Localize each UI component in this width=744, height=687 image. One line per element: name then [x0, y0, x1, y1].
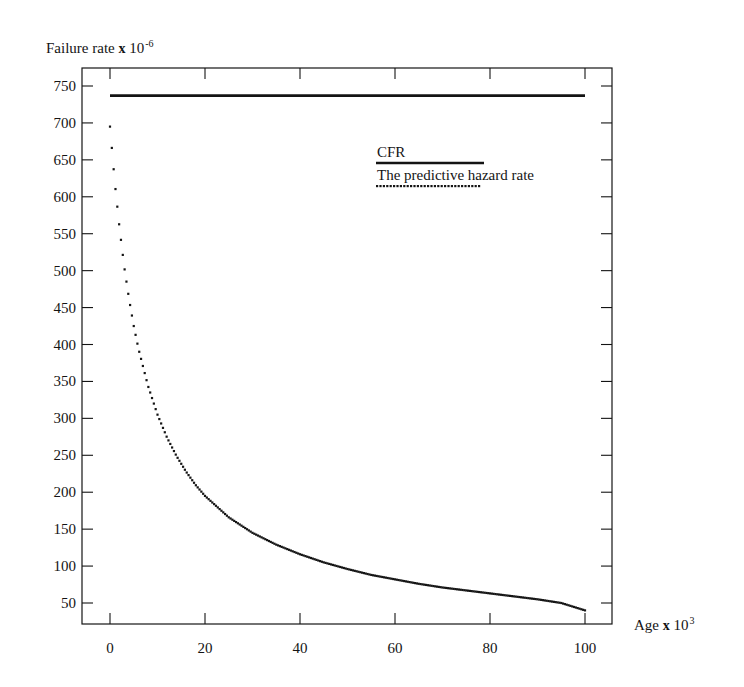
chart-figure: Failure rate x 10-6 Age x 103 5010015020…	[0, 0, 744, 687]
y-tick-label: 200	[30, 484, 76, 501]
x-axis-title-exponent: 3	[690, 615, 695, 626]
y-tick-label: 150	[30, 521, 76, 538]
x-axis-title-base: 10	[674, 617, 689, 633]
x-tick-label: 100	[555, 640, 615, 657]
y-axis-title-exponent: -6	[145, 38, 153, 49]
plot-frame	[82, 68, 612, 624]
y-axis-title-text: Failure rate	[46, 40, 115, 56]
plot-frame-rect	[82, 68, 612, 624]
y-tick-label: 350	[30, 373, 76, 390]
x-axis-title-text: Age	[634, 617, 659, 633]
y-tick-label: 550	[30, 225, 76, 242]
x-tick-label: 0	[80, 640, 140, 657]
legend-label-cfr: CFR	[377, 144, 405, 161]
x-tick-label: 80	[460, 640, 520, 657]
plot-area	[0, 0, 744, 687]
y-tick-label: 50	[30, 595, 76, 612]
y-tick-label: 450	[30, 299, 76, 316]
y-axis-title-mult: x	[118, 41, 125, 56]
series-dotted-predictive-hazard-rate	[109, 126, 586, 612]
y-tick-label: 600	[30, 188, 76, 205]
y-tick-label: 700	[30, 114, 76, 131]
x-axis-title: Age x 103	[634, 615, 695, 634]
y-axis-title-base: 10	[129, 40, 144, 56]
x-tick-label: 40	[270, 640, 330, 657]
y-tick-label: 750	[30, 78, 76, 95]
y-tick-label: 300	[30, 410, 76, 427]
y-axis-title: Failure rate x 10-6	[46, 38, 154, 57]
axis-tick-marks	[82, 68, 612, 624]
legend-swatch-dotted-predictive-hazard-rate	[376, 185, 480, 187]
y-tick-label: 400	[30, 336, 76, 353]
y-tick-label: 250	[30, 447, 76, 464]
y-tick-label: 650	[30, 151, 76, 168]
legend-label-predictive-hazard-rate: The predictive hazard rate	[377, 167, 534, 184]
y-tick-label: 100	[30, 558, 76, 575]
x-tick-label: 60	[365, 640, 425, 657]
y-tick-label: 500	[30, 262, 76, 279]
x-axis-title-mult: x	[663, 618, 670, 633]
x-tick-label: 20	[175, 640, 235, 657]
